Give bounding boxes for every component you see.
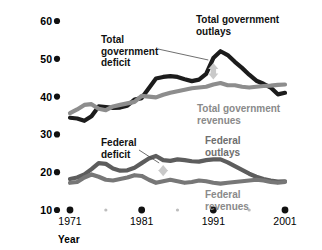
y-tick-label: 10 — [40, 204, 52, 216]
chart-container: 102030405060 1971198119912001 Year Outla… — [0, 0, 322, 250]
x-axis-tick-labels: 1971198119912001 — [58, 215, 297, 227]
x-tick-label: 1971 — [58, 215, 82, 227]
y-axis-tick-labels: 102030405060 — [40, 15, 52, 216]
annotation-leader-line — [158, 49, 208, 60]
x-minor-tick-dot — [248, 208, 251, 211]
annotation-leader-lines — [139, 49, 208, 163]
y-tick-dot — [54, 94, 60, 100]
y-tick-label: 20 — [40, 166, 52, 178]
y-tick-dot — [54, 56, 60, 62]
deficit-double-arrow — [158, 165, 168, 176]
y-tick-label: 30 — [40, 128, 52, 140]
y-tick-label: 50 — [40, 53, 52, 65]
y-tick-dot — [54, 207, 60, 213]
x-minor-tick-dot — [176, 208, 179, 211]
x-axis-minor-tick-dots — [104, 208, 251, 211]
y-tick-dot — [54, 131, 60, 137]
x-tick-dot — [67, 207, 74, 214]
x-tick-label: 1991 — [202, 215, 226, 227]
y-axis-tick-dots — [54, 18, 60, 213]
series-line — [70, 83, 285, 113]
data-series-lines — [70, 51, 285, 183]
x-tick-dot — [138, 207, 145, 214]
y-tick-label: 40 — [40, 91, 52, 103]
x-tick-dot — [210, 207, 217, 214]
chart-plot-area: 102030405060 1971198119912001 Year — [0, 0, 322, 250]
x-tick-label: 2001 — [273, 215, 297, 227]
y-tick-dot — [54, 18, 60, 24]
x-tick-dot — [282, 207, 289, 214]
x-minor-tick-dot — [104, 208, 107, 211]
y-tick-dot — [54, 169, 60, 175]
x-axis-title: Year — [58, 234, 80, 245]
y-tick-label: 60 — [40, 15, 52, 27]
x-tick-label: 1981 — [130, 215, 154, 227]
